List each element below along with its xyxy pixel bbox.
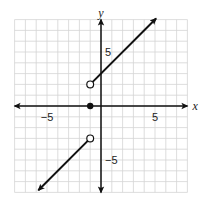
y-tick-label: −5 [105,154,118,166]
function-curves [38,19,156,191]
x-tick-label: 5 [152,111,158,123]
closed-point [87,103,93,109]
lower-piece-ray [38,138,90,190]
axis-labels: −555−5xy [41,6,199,166]
open-circle-endpoint [87,81,94,88]
y-tick-label: 5 [105,46,111,58]
open-circle-endpoint [87,135,94,142]
x-axis-label: x [191,99,198,113]
piecewise-function-graph: −555−5xy [0,0,206,200]
upper-piece-ray [90,19,156,85]
y-axis-label: y [97,6,104,20]
axes [15,20,188,193]
x-tick-label: −5 [41,111,54,123]
